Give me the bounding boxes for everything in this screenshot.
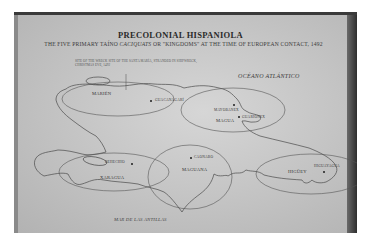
cacique-label-guacanagari: GUACANAGARÍ <box>155 98 184 102</box>
maguana-region <box>148 145 232 209</box>
gonave-outline <box>82 155 107 167</box>
village-marker-icon <box>323 171 325 173</box>
village-marker-icon <box>150 100 152 102</box>
cacique-label-higuayagua: HIGUAYAGUA <box>314 164 340 168</box>
higuey-region <box>256 154 357 194</box>
village-marker-icon <box>190 157 192 159</box>
kingdom-label-marien: MARIÉN <box>92 91 111 96</box>
kingdom-label-xaragua: XARAGUA <box>100 175 124 180</box>
cacique-label-guarionex: GUARIONEX <box>242 115 265 119</box>
kingdom-label-magua: MAGUA <box>216 118 234 123</box>
island-outline-svg <box>14 12 357 233</box>
village-marker-icon <box>233 104 235 106</box>
village-marker-icon <box>238 116 240 118</box>
kingdom-label-maguana: MAGUANA <box>182 167 207 172</box>
map-board-photo: PRECOLONIAL HISPANIOLA THE FIVE PRIMARY … <box>14 12 357 233</box>
tortuga-outline <box>86 77 110 85</box>
cacique-label-mayobanex: MAYOBANEX <box>214 108 239 112</box>
cacique-label-caonabo: CAONABO <box>194 155 213 159</box>
kingdom-label-higuey: HIGÜEY <box>288 169 307 174</box>
xaragua-region <box>59 153 169 191</box>
cacique-label-behechio: BEHECHIO <box>105 160 125 164</box>
village-marker-icon <box>131 163 133 165</box>
